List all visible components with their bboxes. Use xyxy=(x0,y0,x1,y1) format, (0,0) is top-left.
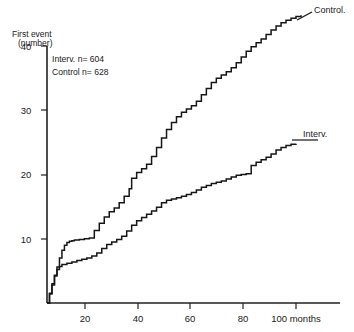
y-tick-label-10: 10 xyxy=(21,234,32,245)
y-tick-label-40: 40 xyxy=(21,41,32,52)
x-axis-units-label: 100 months xyxy=(271,313,321,324)
x-tick-label-40: 40 xyxy=(133,313,144,324)
series-label-control: Control. xyxy=(314,5,346,15)
chart-container: First event (number) 40 30 20 10 20 40 6… xyxy=(0,0,354,332)
annotation-control-count: Control n= 628 xyxy=(52,67,109,77)
y-tick-label-20: 20 xyxy=(21,169,32,180)
annotation-interv-count: Interv. n= 604 xyxy=(52,54,104,64)
series-label-interv: Interv. xyxy=(303,129,327,139)
y-tick-label-30: 30 xyxy=(21,105,32,116)
series-line-interv xyxy=(47,144,296,303)
x-tick-label-80: 80 xyxy=(238,313,249,324)
x-tick-label-20: 20 xyxy=(80,313,91,324)
cumulative-first-event-chart: First event (number) 40 30 20 10 20 40 6… xyxy=(0,0,354,332)
x-tick-label-60: 60 xyxy=(185,313,196,324)
